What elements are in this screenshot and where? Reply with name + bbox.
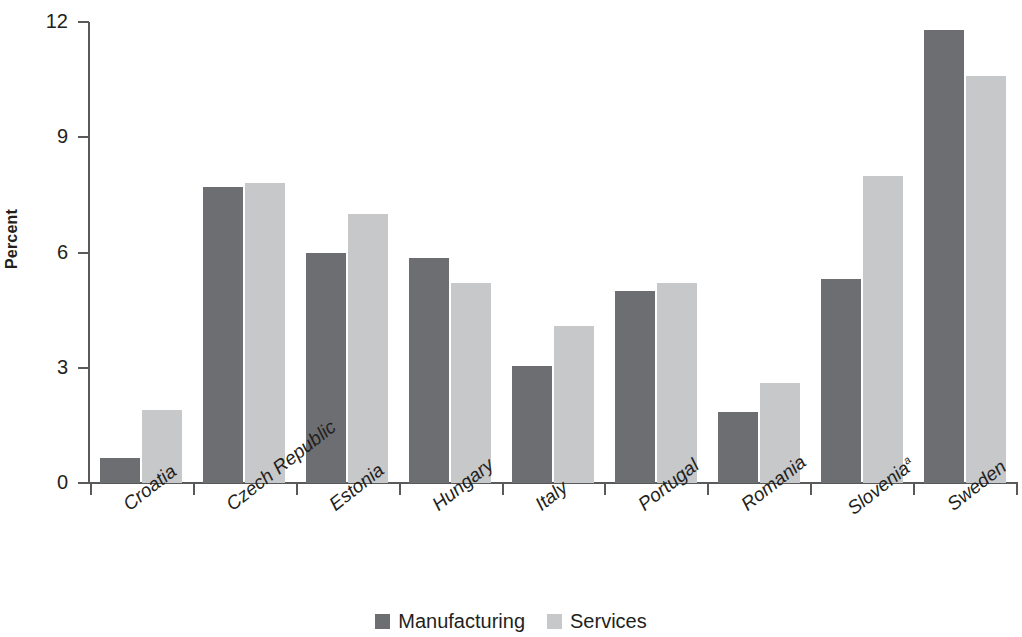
legend-label: Manufacturing (398, 610, 525, 632)
x-axis-tick (90, 484, 92, 495)
legend-label: Services (570, 610, 647, 632)
y-axis-tick (78, 367, 89, 369)
category-footnote-marker: a (900, 453, 912, 466)
bar-manufacturing-croatia (100, 458, 140, 483)
bar-manufacturing-czech-republic (203, 187, 243, 483)
x-axis-tick (810, 484, 812, 495)
y-axis-tick (78, 21, 89, 23)
legend-swatch-services (547, 614, 562, 629)
x-axis-tick (502, 484, 504, 495)
x-axis-tick (399, 484, 401, 495)
bar-manufacturing-hungary (409, 258, 449, 483)
y-axis-tick-label: 9 (40, 126, 68, 146)
y-axis-tick-label: 0 (40, 472, 68, 492)
bar-chart-plot-area: Percent 036912 CroatiaCzech RepublicEsto… (0, 0, 1022, 637)
x-axis-tick (1016, 484, 1018, 495)
y-axis-tick-label: 3 (40, 357, 68, 377)
x-axis-tick (193, 484, 195, 495)
bar-services-italy (554, 326, 594, 484)
bar-services-slovenia (863, 176, 903, 483)
bar-services-portugal (657, 283, 697, 483)
y-axis-tick (78, 482, 89, 484)
bar-manufacturing-romania (718, 412, 758, 483)
bar-services-estonia (348, 214, 388, 483)
x-axis-tick (296, 484, 298, 495)
chart-page: Percent 036912 CroatiaCzech RepublicEsto… (0, 0, 1022, 637)
y-axis-title: Percent (3, 169, 21, 309)
bar-manufacturing-portugal (615, 291, 655, 483)
x-axis-tick (604, 484, 606, 495)
x-axis-tick (707, 484, 709, 495)
legend-item-services: Services (547, 610, 647, 632)
bar-services-czech-republic (245, 183, 285, 483)
bar-manufacturing-sweden (924, 30, 964, 483)
y-axis-tick-label: 6 (40, 242, 68, 262)
legend-swatch-manufacturing (375, 614, 390, 629)
bar-manufacturing-italy (512, 366, 552, 483)
y-axis-tick (78, 136, 89, 138)
bar-manufacturing-slovenia (821, 279, 861, 483)
y-axis-tick-label: 12 (40, 11, 68, 31)
chart-legend: ManufacturingServices (0, 610, 1022, 632)
y-axis-tick (78, 252, 89, 254)
bar-services-hungary (451, 283, 491, 483)
x-axis-tick (913, 484, 915, 495)
bar-services-sweden (966, 76, 1006, 483)
legend-item-manufacturing: Manufacturing (375, 610, 525, 632)
